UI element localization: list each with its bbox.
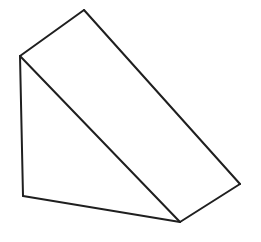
left-vertical-edge <box>20 56 23 196</box>
slant-back-edge <box>84 10 240 184</box>
prism-diagram <box>0 0 261 242</box>
base-edge <box>23 196 180 222</box>
slant-front-edge <box>20 56 180 222</box>
wedge-figure <box>0 0 261 242</box>
right-bottom-edge <box>180 184 240 222</box>
top-edge <box>20 10 84 56</box>
